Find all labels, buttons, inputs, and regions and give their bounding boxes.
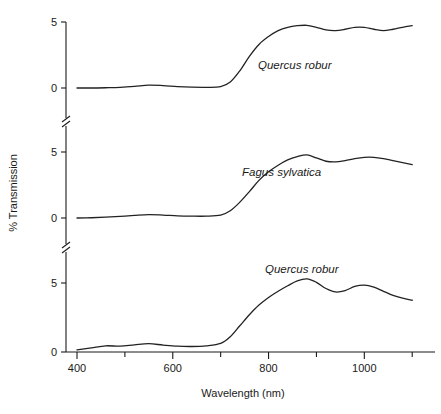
series-line-panel-1 xyxy=(77,155,412,218)
y-axis-title: % Transmission xyxy=(7,154,19,232)
x-tick-label: 800 xyxy=(259,362,277,374)
y-tick-label: 5 xyxy=(51,16,57,28)
y-tick-label: 0 xyxy=(51,82,57,94)
x-axis-ticks xyxy=(77,352,412,359)
y-tick-label: 0 xyxy=(51,212,57,224)
x-tick-label: 1000 xyxy=(352,362,376,374)
series-annotations: Quercus roburFagus sylvaticaQuercus robu… xyxy=(242,59,340,275)
series-line-panel-0 xyxy=(77,25,412,88)
x-axis-title: Wavelength (nm) xyxy=(201,387,284,399)
y-tick-label: 5 xyxy=(51,277,57,289)
spectral-transmission-chart: 050505 4006008001000 Quercus roburFagus … xyxy=(0,0,441,414)
y-tick-label: 0 xyxy=(51,346,57,358)
x-tick-label: 600 xyxy=(164,362,182,374)
series-annotation-panel-2: Quercus robur xyxy=(265,263,340,275)
y-axis-ticks xyxy=(61,22,66,352)
series-curves xyxy=(77,25,412,350)
chart-svg: 050505 4006008001000 Quercus roburFagus … xyxy=(0,0,441,414)
y-tick-label: 5 xyxy=(51,146,57,158)
x-tick-label: 400 xyxy=(68,362,86,374)
y-axis-tick-labels: 050505 xyxy=(51,16,57,358)
y-axis-group: 050505 xyxy=(51,16,70,358)
x-axis-group: 4006008001000 xyxy=(66,352,435,374)
series-annotation-panel-0: Quercus robur xyxy=(258,59,333,71)
x-axis-tick-labels: 4006008001000 xyxy=(68,362,377,374)
series-annotation-panel-1: Fagus sylvatica xyxy=(242,166,321,178)
series-line-panel-2 xyxy=(77,279,412,350)
